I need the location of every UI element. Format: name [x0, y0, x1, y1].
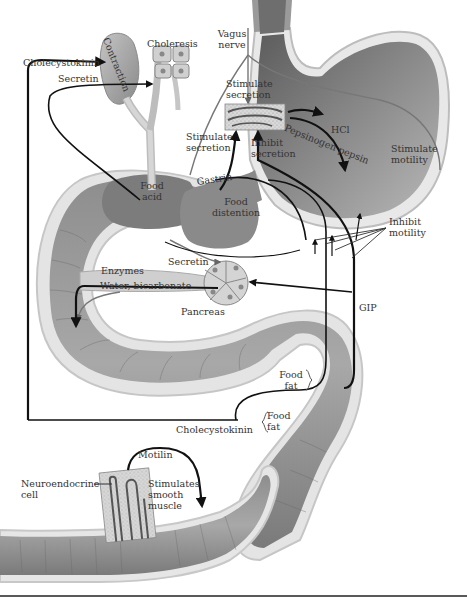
label-food-fat-lower-line1: Food [267, 410, 291, 421]
gi-hormone-diagram: Cholecystokinin Secretin Contraction Cho… [0, 0, 467, 598]
label-enzymes: Enzymes [101, 265, 144, 276]
label-inhibit-sec-line2: secretion [251, 148, 296, 159]
label-stimulates-line2: smooth [148, 489, 200, 500]
label-stimulates-smooth-muscle: Stimulates smooth muscle [148, 478, 200, 511]
label-food-acid-line1: Food [135, 180, 169, 191]
label-cholecystokinin-top: Cholecystokinin [23, 57, 100, 68]
label-stimulates-line3: muscle [148, 500, 200, 511]
label-food-fat-lower: Food fat [267, 410, 291, 432]
label-pancreas: Pancreas [181, 306, 225, 317]
label-food-distention: Food distention [208, 196, 264, 218]
label-food-fat-upper-line2: fat [276, 380, 306, 391]
label-inhibit-motility: Inhibit motility [389, 216, 426, 238]
label-stim-sec-left-line2: secretion [186, 142, 233, 153]
label-food-distention-line1: Food [208, 196, 264, 207]
label-inhibit-motility-line2: motility [389, 227, 426, 238]
label-food-acid: Food acid [135, 180, 169, 202]
label-neuroendocrine-cell: Neuroendocrine cell [21, 478, 100, 500]
label-stim-motility-line1: Stimulate [391, 143, 438, 154]
label-stimulates-line1: Stimulates [148, 478, 200, 489]
gastric-gland-block [225, 104, 285, 130]
label-stimulate-motility: Stimulate motility [391, 143, 438, 165]
label-secretin-mid: Secretin [168, 256, 209, 267]
label-neuroendocrine-line1: Neuroendocrine [21, 478, 100, 489]
label-food-fat-upper-line1: Food [276, 369, 306, 380]
label-food-fat-upper: Food fat [276, 369, 306, 391]
label-food-distention-line2: distention [208, 207, 264, 218]
label-food-acid-line2: acid [135, 191, 169, 202]
label-stim-sec-top-line2: secretion [226, 89, 273, 100]
label-stimulate-secretion-left: Stimulate secretion [186, 131, 233, 153]
label-inhibit-sec-line1: Inhibit [251, 137, 296, 148]
label-stim-sec-left-line1: Stimulate [186, 131, 233, 142]
label-food-fat-lower-line2: fat [267, 421, 291, 432]
label-stimulate-secretion-top: Stimulate secretion [226, 78, 273, 100]
label-choleresis: Choleresis [147, 38, 198, 49]
label-stim-sec-top-line1: Stimulate [226, 78, 273, 89]
label-gip: GIP [359, 302, 377, 313]
label-stim-motility-line2: motility [391, 154, 438, 165]
label-hcl: HCl [331, 124, 350, 135]
label-inhibit-secretion: Inhibit secretion [251, 137, 296, 159]
label-vagus-line1: Vagus [214, 28, 250, 39]
label-water-bicarbonate: Water, bicarbonate [100, 280, 191, 291]
label-inhibit-motility-line1: Inhibit [389, 216, 426, 227]
label-motilin: Motilin [138, 449, 173, 460]
label-vagus-nerve: Vagus nerve [214, 28, 250, 50]
liver-cells [153, 46, 189, 78]
label-cholecystokinin-bottom: Cholecystokinin [176, 424, 253, 435]
label-secretin-top: Secretin [58, 73, 99, 84]
label-neuroendocrine-line2: cell [21, 489, 100, 500]
label-vagus-line2: nerve [214, 39, 250, 50]
